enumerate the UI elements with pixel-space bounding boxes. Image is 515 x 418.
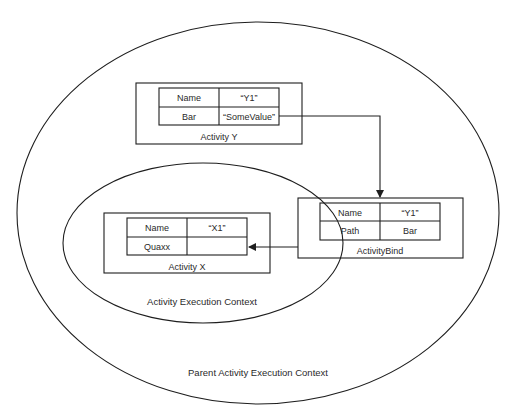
activity-y-bar-value: “SomeValue” bbox=[223, 112, 275, 122]
connector-y-bar-to-bind bbox=[279, 116, 380, 197]
activity-x-title: Activity X bbox=[168, 262, 205, 272]
activity-y-name-key: Name bbox=[177, 93, 201, 103]
activity-y-title: Activity Y bbox=[201, 132, 238, 142]
activity-x-name-key: Name bbox=[145, 223, 169, 233]
activity-bind-name-value: “Y1” bbox=[401, 208, 418, 218]
activity-y-bar-key: Bar bbox=[182, 112, 196, 122]
activity-bind-path-value: Bar bbox=[403, 226, 417, 236]
activity-execution-context-label: Activity Execution Context bbox=[147, 296, 257, 307]
parent-execution-context-label: Parent Activity Execution Context bbox=[188, 367, 328, 378]
activity-bind-name-key: Name bbox=[338, 208, 362, 218]
activity-x-box: Name “X1” Quaxx Activity X bbox=[104, 213, 270, 273]
activity-y-name-value: “Y1” bbox=[240, 93, 257, 103]
activity-bind-path-key: Path bbox=[341, 226, 360, 236]
activity-y-box: Name “Y1” Bar “SomeValue” Activity Y bbox=[136, 83, 302, 144]
activity-x-name-value: “X1” bbox=[208, 223, 225, 233]
activity-x-quaxx-key: Quaxx bbox=[144, 242, 171, 252]
activity-bind-title: ActivityBind bbox=[357, 246, 404, 256]
activity-bind-box: Name “Y1” Path Bar ActivityBind bbox=[298, 198, 463, 258]
diagram-canvas: Name “Y1” Bar “SomeValue” Activity Y Nam… bbox=[0, 0, 515, 418]
